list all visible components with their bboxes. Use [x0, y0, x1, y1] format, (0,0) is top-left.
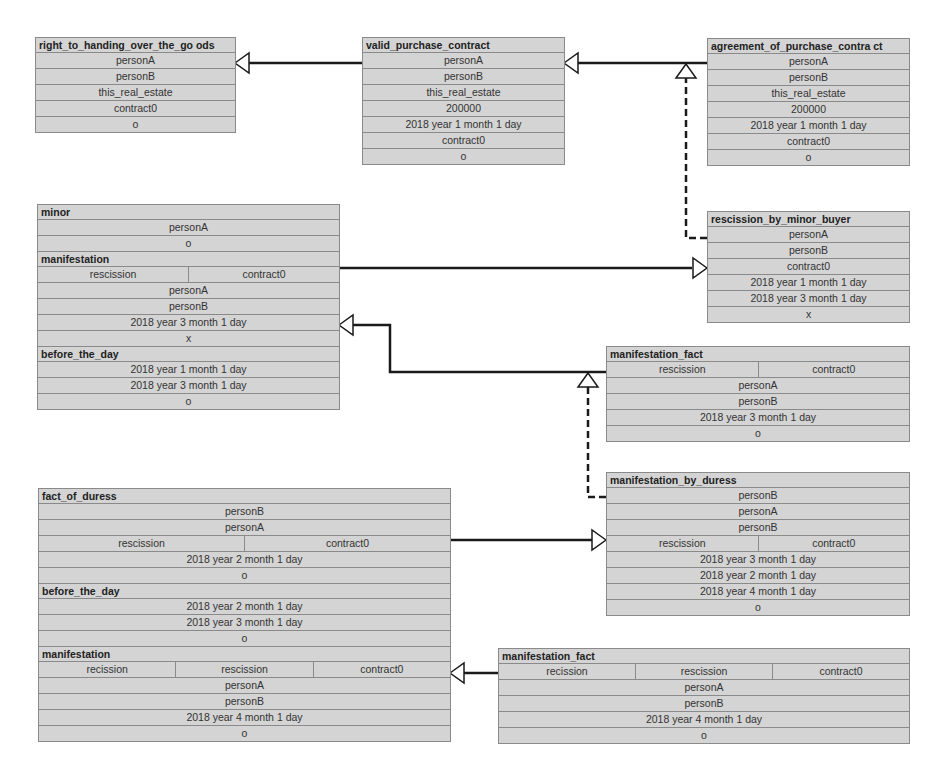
attribute-row: personB	[39, 694, 450, 710]
attribute-row: personA	[607, 378, 909, 394]
attribute-value: contract0	[363, 133, 564, 148]
attribute-row: personA	[499, 680, 909, 696]
attribute-value: contract0	[708, 134, 909, 149]
attribute-value: rescission	[607, 536, 759, 551]
section-title: manifestation_by_duress	[607, 473, 909, 488]
attribute-row: o	[39, 631, 450, 647]
section-title: manifestation	[39, 647, 450, 662]
attribute-value: rescission	[176, 662, 313, 677]
attribute-value: contract0	[189, 267, 339, 282]
class-box-rescission-by-minor-buyer[interactable]: rescission_by_minor_buyerpersonApersonBc…	[707, 211, 910, 323]
attribute-value: 2018 year 3 month 1 day	[39, 615, 450, 630]
attribute-row: personB	[39, 504, 450, 520]
attribute-row: o	[607, 600, 909, 615]
attribute-value: x	[38, 331, 339, 346]
attribute-row: o	[38, 394, 339, 409]
attribute-value: personA	[499, 680, 909, 695]
inheritance-arrow-icon	[676, 64, 696, 78]
attribute-value: personA	[363, 53, 564, 68]
attribute-row: personA	[363, 53, 564, 69]
class-box-right-to-handing-over-the-goods[interactable]: right_to_handing_over_the_go odspersonAp…	[35, 37, 236, 133]
attribute-row: personB	[499, 696, 909, 712]
attribute-row: this_real_estate	[708, 86, 909, 102]
attribute-row: o	[39, 568, 450, 584]
attribute-row: personB	[607, 520, 909, 536]
attribute-value: o	[36, 117, 235, 132]
attribute-row: rescissioncontract0	[38, 267, 339, 283]
attribute-row: rescissioncontract0	[607, 362, 909, 378]
section-title: agreement_of_purchase_contra ct	[708, 39, 909, 54]
attribute-value: o	[38, 394, 339, 409]
attribute-value: personB	[363, 69, 564, 84]
section-title: manifestation	[38, 252, 339, 267]
attribute-value: 2018 year 1 month 1 day	[708, 118, 909, 133]
attribute-row: 2018 year 1 month 1 day	[363, 117, 564, 133]
class-box-valid-purchase-contract[interactable]: valid_purchase_contractpersonApersonBthi…	[362, 37, 565, 165]
section-title: manifestation_fact	[499, 649, 909, 664]
connector-dashed	[686, 78, 707, 238]
attribute-row: 2018 year 1 month 1 day	[708, 118, 909, 134]
class-box-agreement-of-purchase-contract[interactable]: agreement_of_purchase_contra ctpersonApe…	[707, 38, 910, 166]
attribute-row: personB	[607, 488, 909, 504]
section-title: minor	[38, 205, 339, 220]
attribute-value: personA	[38, 283, 339, 298]
class-box-minor[interactable]: minorpersonAomanifestationrescissioncont…	[37, 204, 340, 410]
attribute-row: 2018 year 2 month 1 day	[39, 599, 450, 615]
attribute-row: o	[363, 149, 564, 164]
attribute-value: 200000	[363, 101, 564, 116]
attribute-value: o	[38, 236, 339, 251]
attribute-value: personA	[607, 378, 909, 393]
attribute-value: personB	[36, 69, 235, 84]
attribute-row: 2018 year 1 month 1 day	[38, 362, 339, 378]
attribute-value: 2018 year 2 month 1 day	[607, 568, 909, 583]
section-title: valid_purchase_contract	[363, 38, 564, 53]
attribute-value: 2018 year 1 month 1 day	[38, 362, 339, 377]
section-title: manifestation_fact	[607, 347, 909, 362]
class-box-manifestation-fact[interactable]: manifestation_factrescissioncontract0per…	[606, 346, 910, 442]
attribute-row: personB	[36, 69, 235, 85]
inheritance-arrow-icon	[235, 53, 249, 73]
attribute-value: 2018 year 4 month 1 day	[499, 712, 909, 727]
attribute-row: 2018 year 2 month 1 day	[39, 552, 450, 568]
attribute-row: contract0	[363, 133, 564, 149]
attribute-value: personB	[39, 504, 450, 519]
inheritance-arrow-icon	[578, 373, 598, 387]
attribute-value: recission	[39, 662, 176, 677]
attribute-row: 2018 year 4 month 1 day	[499, 712, 909, 728]
attribute-value: rescission	[607, 362, 759, 377]
attribute-value: 2018 year 3 month 1 day	[607, 410, 909, 425]
attribute-value: personB	[607, 488, 909, 503]
class-box-manifestation-by-duress[interactable]: manifestation_by_duresspersonBpersonAper…	[606, 472, 910, 616]
attribute-value: 2018 year 3 month 1 day	[607, 552, 909, 567]
attribute-row: 2018 year 4 month 1 day	[39, 710, 450, 726]
attribute-value: 2018 year 3 month 1 day	[38, 378, 339, 393]
attribute-value: 2018 year 3 month 1 day	[38, 315, 339, 330]
attribute-value: 2018 year 1 month 1 day	[708, 275, 909, 290]
attribute-value: personA	[39, 678, 450, 693]
attribute-row: personB	[607, 394, 909, 410]
attribute-row: rescissioncontract0	[39, 536, 450, 552]
attribute-value: 2018 year 1 month 1 day	[363, 117, 564, 132]
class-box-manifestation-fact-bottom[interactable]: manifestation_factrecissionrescissioncon…	[498, 648, 910, 744]
attribute-value: 200000	[708, 102, 909, 117]
inheritance-arrow-icon	[450, 663, 464, 683]
attribute-value: rescission	[39, 536, 245, 551]
attribute-value: 2018 year 2 month 1 day	[39, 599, 450, 614]
attribute-value: o	[39, 726, 450, 741]
attribute-row: 2018 year 1 month 1 day	[708, 275, 909, 291]
attribute-row: o	[38, 236, 339, 252]
attribute-value: contract0	[314, 662, 450, 677]
attribute-row: rescissioncontract0	[607, 536, 909, 552]
attribute-row: contract0	[36, 101, 235, 117]
class-box-fact-of-duress[interactable]: fact_of_duresspersonBpersonArescissionco…	[38, 488, 451, 742]
attribute-row: personA	[708, 227, 909, 243]
attribute-value: contract0	[245, 536, 450, 551]
attribute-value: personB	[499, 696, 909, 711]
attribute-value: personB	[38, 299, 339, 314]
attribute-row: 2018 year 3 month 1 day	[38, 315, 339, 331]
attribute-row: personB	[708, 70, 909, 86]
attribute-value: personA	[607, 504, 909, 519]
attribute-value: contract0	[759, 362, 910, 377]
attribute-value: 2018 year 3 month 1 day	[708, 291, 909, 306]
attribute-row: personA	[607, 504, 909, 520]
